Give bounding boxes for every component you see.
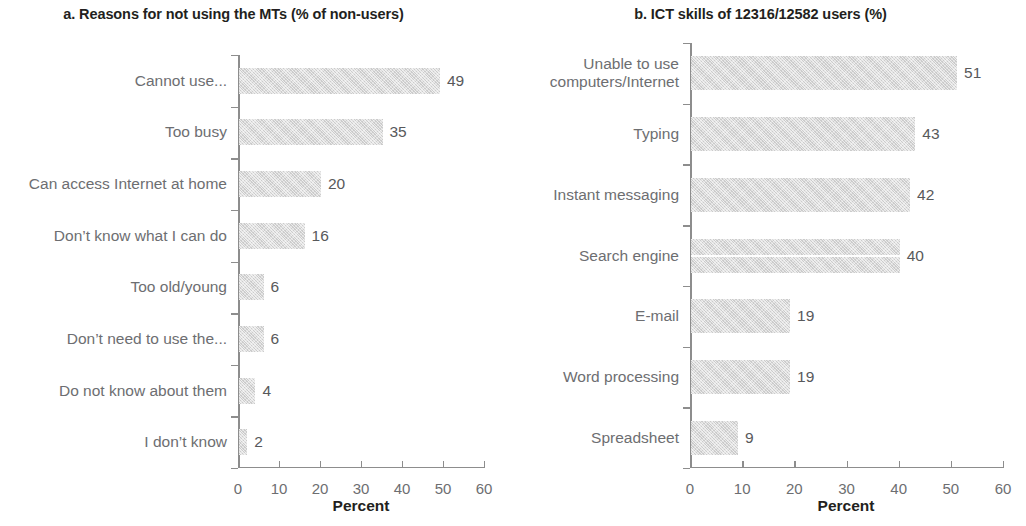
bar-value-label: 4 [262, 382, 271, 400]
y-tick [683, 407, 690, 408]
y-tick [683, 286, 690, 287]
bar-value-label: 6 [271, 278, 280, 296]
bar-value-label: 20 [328, 175, 345, 193]
bar-value-label: 43 [922, 125, 939, 143]
bar-value-label: 16 [312, 227, 329, 245]
category-label: Unable to usecomputers/Internet [499, 56, 679, 92]
bar [239, 68, 440, 94]
y-tick [683, 468, 690, 469]
panel-b-title: b. ICT skills of 12316/12582 users (%) [513, 6, 1026, 22]
x-tick-a-10 [279, 461, 280, 468]
figure-container: a. Reasons for not using the MTs (% of n… [0, 0, 1026, 526]
y-tick [231, 416, 238, 417]
category-label: Can access Internet at home [29, 175, 227, 193]
category-label: Too old/young [130, 278, 227, 296]
scan-artifact-line [691, 255, 900, 257]
y-tick [231, 365, 238, 366]
category-label-line: computers/Internet [499, 73, 679, 91]
panel-b-x-axis-title: Percent [818, 497, 875, 515]
y-tick [683, 43, 690, 44]
x-tick-label: 20 [786, 480, 803, 497]
x-tick-b-60 [1003, 461, 1004, 468]
bar [239, 274, 264, 300]
x-tick-label: 10 [734, 480, 751, 497]
x-tick-a-60 [484, 461, 485, 468]
x-tick-label: 50 [435, 480, 452, 497]
x-tick-b-20 [794, 461, 795, 468]
chart-panel-a: a. Reasons for not using the MTs (% of n… [0, 0, 513, 526]
y-tick [683, 225, 690, 226]
bar [691, 360, 790, 394]
bar-value-label: 40 [907, 247, 924, 265]
y-tick [231, 107, 238, 108]
x-tick-label: 0 [686, 480, 694, 497]
panel-b-plot-area: 010203040506051Unable to usecomputers/In… [690, 43, 1003, 468]
y-tick [231, 468, 238, 469]
bar-value-label: 9 [745, 429, 754, 447]
x-tick-a-30 [361, 461, 362, 468]
y-tick [683, 164, 690, 165]
category-label: Spreadsheet [591, 429, 679, 447]
category-label: Instant messaging [553, 186, 679, 204]
category-label-line: Unable to use [499, 56, 679, 74]
x-tick-b-50 [951, 461, 952, 468]
bar [691, 117, 915, 151]
x-tick-label: 10 [271, 480, 288, 497]
category-label: Don’t need to use the... [67, 330, 227, 348]
x-tick-a-40 [402, 461, 403, 468]
y-tick [231, 262, 238, 263]
x-tick-label: 0 [234, 480, 242, 497]
category-label: E-mail [635, 307, 679, 325]
bar-value-label: 6 [271, 330, 280, 348]
bar-value-label: 19 [797, 307, 814, 325]
x-tick-label: 40 [890, 480, 907, 497]
x-tick-a-20 [320, 461, 321, 468]
bar [691, 421, 738, 455]
bar [239, 326, 264, 352]
x-tick-b-0 [690, 461, 691, 468]
bar-value-label: 19 [797, 368, 814, 386]
bar [239, 223, 305, 249]
x-tick-label: 30 [353, 480, 370, 497]
bar-value-label: 49 [447, 72, 464, 90]
y-tick [683, 104, 690, 105]
x-tick-b-30 [847, 461, 848, 468]
bar [239, 171, 321, 197]
panel-a-plot-area: 010203040506049Cannot use...35Too busy20… [238, 55, 484, 468]
category-label: Search engine [579, 247, 679, 265]
y-tick [683, 347, 690, 348]
category-label: Typing [633, 125, 679, 143]
bar [239, 429, 247, 455]
bar-value-label: 42 [917, 186, 934, 204]
category-label: Word processing [563, 368, 679, 386]
bar [239, 119, 383, 145]
x-tick-label: 20 [312, 480, 329, 497]
x-tick-a-0 [238, 461, 239, 468]
x-tick-b-10 [742, 461, 743, 468]
x-tick-b-40 [899, 461, 900, 468]
category-label: Don’t know what I can do [54, 227, 227, 245]
x-tick-label: 60 [995, 480, 1012, 497]
x-tick-a-50 [443, 461, 444, 468]
bar [691, 56, 957, 90]
bar [239, 378, 255, 404]
bar [691, 299, 790, 333]
x-tick-label: 50 [942, 480, 959, 497]
bar-value-label: 35 [390, 123, 407, 141]
x-tick-label: 30 [838, 480, 855, 497]
bar-value-label: 2 [254, 433, 263, 451]
y-tick [231, 313, 238, 314]
y-tick [231, 210, 238, 211]
x-tick-label: 40 [394, 480, 411, 497]
x-tick-label: 60 [476, 480, 493, 497]
chart-panel-b: b. ICT skills of 12316/12582 users (%) 0… [513, 0, 1026, 526]
y-tick [231, 55, 238, 56]
bar-value-label: 51 [964, 64, 981, 82]
panel-a-y-axis-line [238, 55, 240, 468]
bar [691, 178, 910, 212]
category-label: Cannot use... [135, 72, 227, 90]
y-tick [231, 158, 238, 159]
panel-a-x-axis-title: Percent [333, 497, 390, 515]
category-label: Do not know about them [59, 382, 227, 400]
category-label: Too busy [165, 124, 227, 142]
